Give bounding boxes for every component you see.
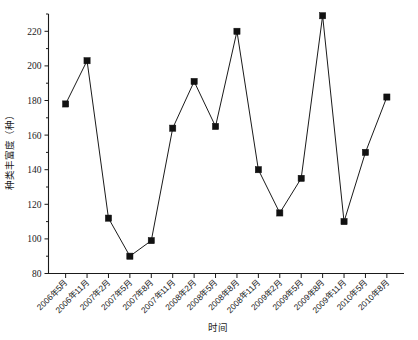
y-axis-title: 种类丰富度（种） (4, 110, 15, 190)
line-chart-canvas: 80100120140160180200220 2006年5月2006年11月2… (0, 0, 418, 340)
data-point-marker (320, 13, 326, 19)
x-axis-title: 时间 (208, 322, 228, 333)
y-tick-label: 140 (27, 165, 42, 175)
data-point-marker (362, 149, 368, 155)
data-point-marker (255, 167, 261, 173)
y-tick-label: 120 (27, 200, 42, 210)
data-point-marker (298, 175, 304, 181)
data-point-marker (63, 101, 69, 107)
y-tick-label: 80 (32, 269, 42, 279)
data-point-marker (277, 210, 283, 216)
data-point-marker (341, 219, 347, 225)
y-tick-label: 100 (27, 234, 42, 244)
data-point-marker (212, 123, 218, 129)
data-point-marker (234, 28, 240, 34)
y-tick-label: 160 (27, 131, 42, 141)
data-point-marker (148, 238, 154, 244)
data-point-marker (84, 58, 90, 64)
y-tick-label: 200 (27, 61, 42, 71)
data-point-marker (127, 253, 133, 259)
data-point-marker (170, 125, 176, 131)
y-tick-label: 220 (27, 27, 42, 37)
chart-figure: 80100120140160180200220 2006年5月2006年11月2… (0, 0, 418, 340)
y-tick-label: 180 (27, 96, 42, 106)
data-point-marker (105, 215, 111, 221)
data-point-marker (384, 94, 390, 100)
data-point-marker (191, 78, 197, 84)
